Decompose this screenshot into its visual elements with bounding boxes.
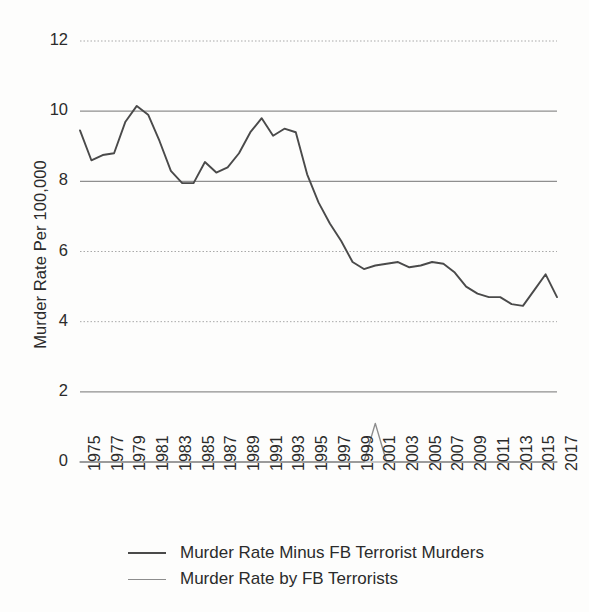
series-line-0 (80, 106, 557, 306)
y-tick-6: 6 (34, 241, 68, 260)
x-tick-2003: 2003 (404, 435, 422, 471)
x-tick-2005: 2005 (427, 435, 445, 471)
y-tick-12: 12 (34, 30, 68, 49)
series-lines (80, 106, 557, 462)
x-tick-1997: 1997 (336, 435, 354, 471)
y-tick-8: 8 (34, 170, 68, 189)
y-tick-4: 4 (34, 311, 68, 330)
x-tick-1989: 1989 (245, 435, 263, 471)
plot-canvas (0, 0, 589, 612)
y-tick-10: 10 (34, 100, 68, 119)
line-chart: Murder Rate Per 100,000 024681012 197519… (0, 0, 589, 612)
legend-line-swatch-1 (128, 579, 166, 580)
x-tick-1977: 1977 (109, 435, 127, 471)
legend-label-0: Murder Rate Minus FB Terrorist Murders (180, 543, 484, 563)
x-tick-1995: 1995 (313, 435, 331, 471)
y-tick-0: 0 (34, 451, 68, 470)
chart-legend: Murder Rate Minus FB Terrorist Murders M… (128, 540, 568, 592)
x-tick-2001: 2001 (381, 435, 399, 471)
x-tick-2009: 2009 (472, 435, 490, 471)
x-tick-1983: 1983 (177, 435, 195, 471)
x-tick-2015: 2015 (540, 435, 558, 471)
x-tick-1987: 1987 (222, 435, 240, 471)
x-tick-2017: 2017 (563, 435, 581, 471)
legend-item-1: Murder Rate by FB Terrorists (128, 566, 568, 592)
x-tick-1975: 1975 (86, 435, 104, 471)
x-tick-2007: 2007 (449, 435, 467, 471)
legend-label-1: Murder Rate by FB Terrorists (180, 569, 398, 589)
chart-page: Murder Rate Per 100,000 024681012 197519… (0, 0, 589, 612)
legend-item-0: Murder Rate Minus FB Terrorist Murders (128, 540, 568, 566)
gridlines (80, 41, 557, 462)
y-tick-2: 2 (34, 381, 68, 400)
x-tick-2013: 2013 (518, 435, 536, 471)
x-tick-1993: 1993 (290, 435, 308, 471)
x-tick-1981: 1981 (154, 435, 172, 471)
legend-line-swatch-0 (128, 552, 166, 554)
x-tick-1979: 1979 (131, 435, 149, 471)
x-tick-2011: 2011 (495, 437, 513, 471)
x-tick-1985: 1985 (200, 435, 218, 471)
x-tick-1991: 1991 (268, 435, 286, 471)
x-tick-1999: 1999 (359, 435, 377, 471)
